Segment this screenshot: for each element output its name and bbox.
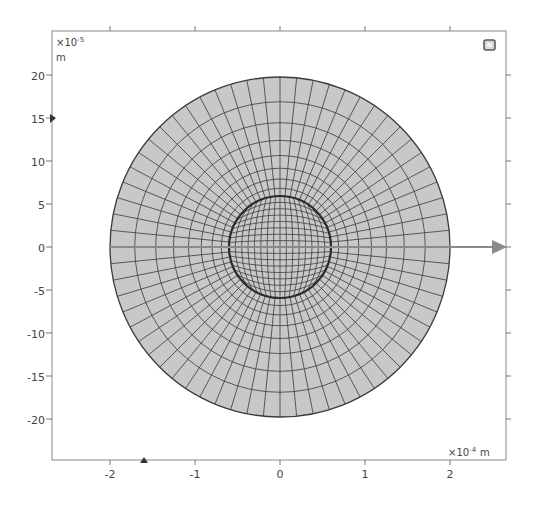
y-tick-label: 20: [31, 70, 45, 83]
y-tick-label: 15: [31, 113, 45, 126]
y-tick-label: -10: [27, 328, 45, 341]
x-axis-multiplier: ×10-4m: [448, 446, 490, 458]
arrow-right-icon: [492, 240, 507, 254]
y-axis-multiplier: ×10-5: [56, 36, 84, 48]
y-tick-label: 5: [38, 199, 45, 212]
y-tick-label: -5: [34, 285, 45, 298]
x-tick-label: 0: [277, 468, 284, 481]
y-tick-label: -20: [27, 414, 45, 427]
y-tick-label: 0: [38, 242, 45, 255]
triangle-right-icon[interactable]: [50, 114, 56, 123]
y-tick-label: -15: [27, 371, 45, 384]
x-tick-label: 2: [447, 468, 454, 481]
view-cube-icon[interactable]: [484, 40, 495, 50]
x-tick-label: 1: [362, 468, 369, 481]
y-tick-label: 10: [31, 156, 45, 169]
graphics-canvas[interactable]: -2-101220151050-5-10-15-20 ×10-5 m ×10-4…: [0, 0, 540, 506]
y-axis-unit: m: [56, 52, 66, 63]
x-tick-label: -2: [105, 468, 116, 481]
x-tick-label: -1: [190, 468, 201, 481]
